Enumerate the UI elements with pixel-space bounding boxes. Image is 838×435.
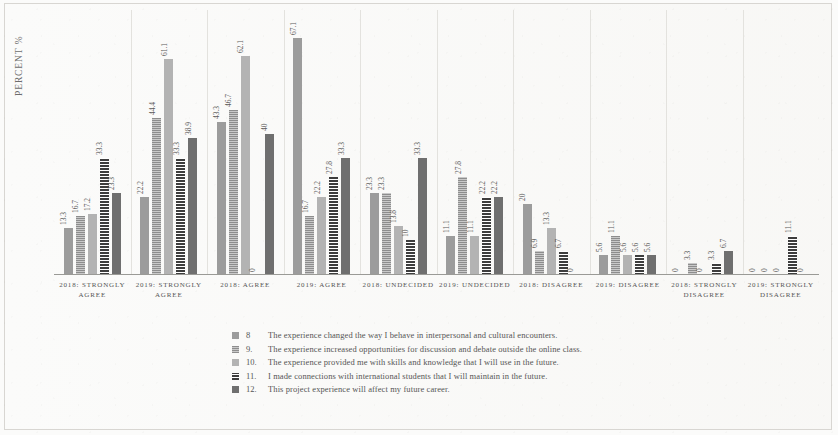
bar-slot: 5.6 [623, 255, 632, 275]
bar[interactable] [152, 118, 161, 275]
legend-item[interactable]: 8The experience changed the way I behave… [232, 330, 582, 340]
bar[interactable] [317, 197, 326, 275]
bar-slot: 22.2 [482, 197, 491, 275]
category-label: 2019: AGREE [284, 280, 361, 300]
legend-item[interactable]: 11.I made connections with international… [232, 371, 582, 381]
category-label: 2018: STRONGLY AGREE [54, 280, 131, 300]
bar[interactable] [88, 214, 97, 275]
bar-slot: 16.7 [76, 216, 85, 275]
legend-swatch [232, 386, 239, 393]
bar-value-label: 0 [772, 268, 781, 272]
bar-slot: 61.1 [164, 59, 173, 275]
bar-value-label: 0 [695, 268, 704, 272]
bar[interactable] [229, 110, 238, 275]
bar-slot: 13.3 [64, 228, 73, 275]
bar[interactable] [176, 158, 185, 276]
bar[interactable] [647, 255, 656, 275]
bar-value-label: 43.3 [212, 106, 221, 119]
bar-slot: 46.7 [229, 110, 238, 275]
bar-slot: 22.2 [317, 197, 326, 275]
bar[interactable] [217, 122, 226, 275]
bar-value-label: 33.3 [95, 141, 104, 154]
bar[interactable] [305, 216, 314, 275]
legend-number: 10. [246, 357, 268, 367]
bar-value-label: 22.2 [490, 181, 499, 194]
bar-value-label: 13.3 [59, 212, 68, 225]
legend-number: 11. [246, 371, 268, 381]
bar-value-label: 13.8 [389, 210, 398, 223]
bar[interactable] [470, 236, 479, 275]
bar[interactable] [370, 193, 379, 275]
legend-item[interactable]: 12.This project experience will affect m… [232, 384, 582, 394]
legend-label: The experience provided me with skills a… [268, 357, 559, 367]
bar[interactable] [265, 134, 274, 275]
bar-value-label: 27.8 [454, 161, 463, 174]
bar-value-label: 0 [671, 268, 680, 272]
bar-slot: 17.2 [88, 214, 97, 275]
bar-slot: 5.6 [599, 255, 608, 275]
bar[interactable] [329, 177, 338, 275]
bar[interactable] [623, 255, 632, 275]
bar[interactable] [406, 240, 415, 275]
bar[interactable] [64, 228, 73, 275]
bar-value-label: 61.1 [160, 43, 169, 56]
bar-group: 5.611.15.65.65.6 [590, 10, 667, 275]
category-label: 2019: STRONGLY DISAGREE [743, 280, 820, 300]
bar-slot: 62.1 [241, 56, 250, 275]
bar-slot: 27.8 [329, 177, 338, 275]
bar[interactable] [418, 158, 427, 276]
bar-value-label: 6.7 [719, 239, 728, 248]
bar[interactable] [382, 193, 391, 275]
bar-slot: 23.3 [370, 193, 379, 275]
bar-slot: 22.2 [494, 197, 503, 275]
bar-value-label: 46.7 [224, 94, 233, 107]
bar-value-label: 16.7 [71, 200, 80, 213]
bar-slot: 22.2 [140, 197, 149, 275]
legend-label: The experience changed the way I behave … [268, 330, 557, 340]
bar-value-label: 40 [260, 123, 269, 131]
bar-value-label: 33.3 [413, 141, 422, 154]
chart-legend: 8The experience changed the way I behave… [232, 330, 582, 394]
bar[interactable] [188, 138, 197, 275]
bar[interactable] [494, 197, 503, 275]
bar-group: 03.303.36.7 [666, 10, 743, 275]
category-label: 2019: STRONGLY AGREE [131, 280, 208, 300]
bar[interactable] [100, 158, 109, 276]
bar-slot: 6.9 [535, 251, 544, 275]
bar-value-label: 0 [760, 268, 769, 272]
bar[interactable] [446, 236, 455, 275]
bar-slot: 33.3 [341, 158, 350, 276]
legend-item[interactable]: 9.The experience increased opportunities… [232, 344, 582, 354]
bar[interactable] [547, 228, 556, 275]
bar[interactable] [724, 251, 733, 275]
bar-value-label: 33.3 [172, 141, 181, 154]
bar-slot: 11.1 [470, 236, 479, 275]
bar-value-label: 0 [566, 268, 575, 272]
bar-slot: 10 [406, 240, 415, 275]
bar[interactable] [635, 255, 644, 275]
bar-value-label: 11.1 [466, 220, 475, 233]
bar[interactable] [293, 38, 302, 275]
bar-value-label: 11.1 [607, 220, 616, 233]
bar[interactable] [164, 59, 173, 275]
bar-slot: 43.3 [217, 122, 226, 275]
bar-value-label: 27.8 [325, 161, 334, 174]
bar-value-label: 5.6 [631, 243, 640, 252]
bar[interactable] [140, 197, 149, 275]
bar-slot: 40 [265, 134, 274, 275]
bar-value-label: 13.3 [542, 212, 551, 225]
bar[interactable] [112, 193, 121, 275]
bar-value-label: 22.2 [313, 181, 322, 194]
bar-value-label: 6.7 [554, 239, 563, 248]
bar-value-label: 44.4 [148, 102, 157, 115]
legend-item[interactable]: 10.The experience provided me with skill… [232, 357, 582, 367]
legend-label: The experience increased opportunities f… [268, 344, 582, 354]
bar[interactable] [341, 158, 350, 276]
bar[interactable] [241, 56, 250, 275]
bar-value-label: 0 [796, 268, 805, 272]
bar[interactable] [599, 255, 608, 275]
bar[interactable] [535, 251, 544, 275]
bar[interactable] [482, 197, 491, 275]
bar[interactable] [76, 216, 85, 275]
bar-slot: 67.1 [293, 38, 302, 275]
